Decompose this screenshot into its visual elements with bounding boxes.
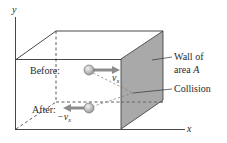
before-label: Before: — [30, 65, 60, 76]
x-axis-label: x — [186, 123, 192, 134]
after-label: After: — [32, 104, 56, 115]
collision-label: Collision — [174, 83, 211, 94]
y-axis-label: y — [11, 4, 17, 15]
wall-label-line1: Wall of — [174, 51, 204, 62]
after-velocity-label: −vx — [57, 111, 71, 123]
wall-label-line2: area A — [174, 64, 200, 75]
after-molecule — [84, 103, 94, 113]
before-molecule — [84, 65, 94, 75]
wall-of-area-a — [121, 31, 163, 129]
gas-molecule-collision-diagram: y x Collision Wall of area A Before: vx … — [0, 0, 227, 143]
before-velocity-label: vx — [112, 72, 119, 84]
